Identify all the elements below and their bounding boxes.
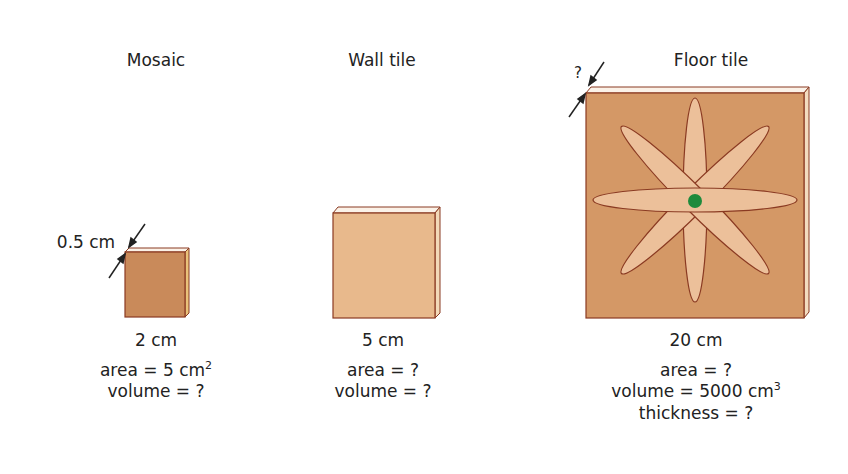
floor-tile-volume: volume = 5000 cm3: [611, 381, 781, 401]
mosaic-tile: [125, 248, 189, 317]
floor-tile-side-label: 20 cm: [670, 330, 723, 350]
mosaic-title: Mosaic: [127, 50, 185, 70]
wall-tile-title: Wall tile: [348, 50, 416, 70]
mosaic-volume: volume = ?: [107, 381, 204, 401]
floor-tile-thickness: thickness = ?: [639, 403, 753, 423]
wall-tile-side-label: 5 cm: [362, 330, 404, 350]
floor-tile-area: area = ?: [660, 360, 732, 380]
wall-tile: [333, 207, 440, 318]
floor-tile-title: Floor tile: [674, 50, 748, 70]
mosaic-thickness-label: 0.5 cm: [57, 232, 115, 252]
floor-tile: [586, 87, 809, 318]
floor-thickness-label: ?: [574, 64, 582, 82]
wall-tile-area: area = ?: [347, 360, 419, 380]
flower-center-icon: [688, 194, 702, 208]
mosaic-side-label: 2 cm: [135, 330, 177, 350]
wall-tile-volume: volume = ?: [334, 381, 431, 401]
mosaic-area: area = 5 cm2: [100, 360, 212, 380]
